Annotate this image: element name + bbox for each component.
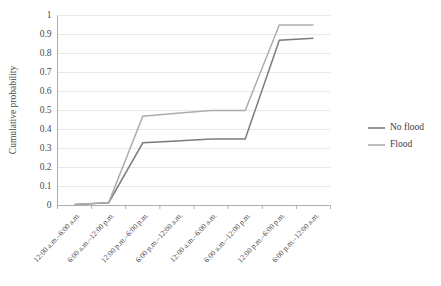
y-tick-label: 0.4 (40, 124, 52, 134)
y-tick-label: 0 (47, 200, 52, 210)
cumulative-probability-chart: 00.10.20.30.40.50.60.70.80.91 12:00 a.m.… (0, 0, 441, 286)
chart-legend: No floodFlood (368, 122, 424, 149)
y-tick-label: 0.6 (40, 86, 52, 96)
y-tick-label: 0.2 (40, 162, 52, 172)
y-tick-label: 0.9 (40, 29, 52, 39)
chart-canvas: 00.10.20.30.40.50.60.70.80.91 12:00 a.m.… (0, 0, 441, 286)
y-tick-label: 1 (47, 10, 52, 20)
legend-label-flood: Flood (390, 139, 412, 149)
series-line-no-flood (75, 38, 314, 204)
y-tick-label: 0.7 (40, 67, 52, 77)
gridlines (58, 16, 331, 187)
y-tick-label: 0.3 (40, 143, 52, 153)
legend-label-no-flood: No flood (390, 122, 424, 132)
y-axis-tick-labels: 00.10.20.30.40.50.60.70.80.91 (40, 10, 52, 210)
y-tick-label: 0.8 (40, 48, 52, 58)
series-line-flood (75, 25, 314, 205)
y-axis-title: Cumulative probability (8, 66, 18, 155)
y-tick-label: 0.5 (40, 105, 52, 115)
data-series (75, 25, 314, 205)
x-axis-tick-labels: 12:00 a.m.–6:00 a.m.6:00 a.m.–12:00 p.m.… (31, 211, 321, 265)
y-tick-label: 0.1 (40, 181, 52, 191)
